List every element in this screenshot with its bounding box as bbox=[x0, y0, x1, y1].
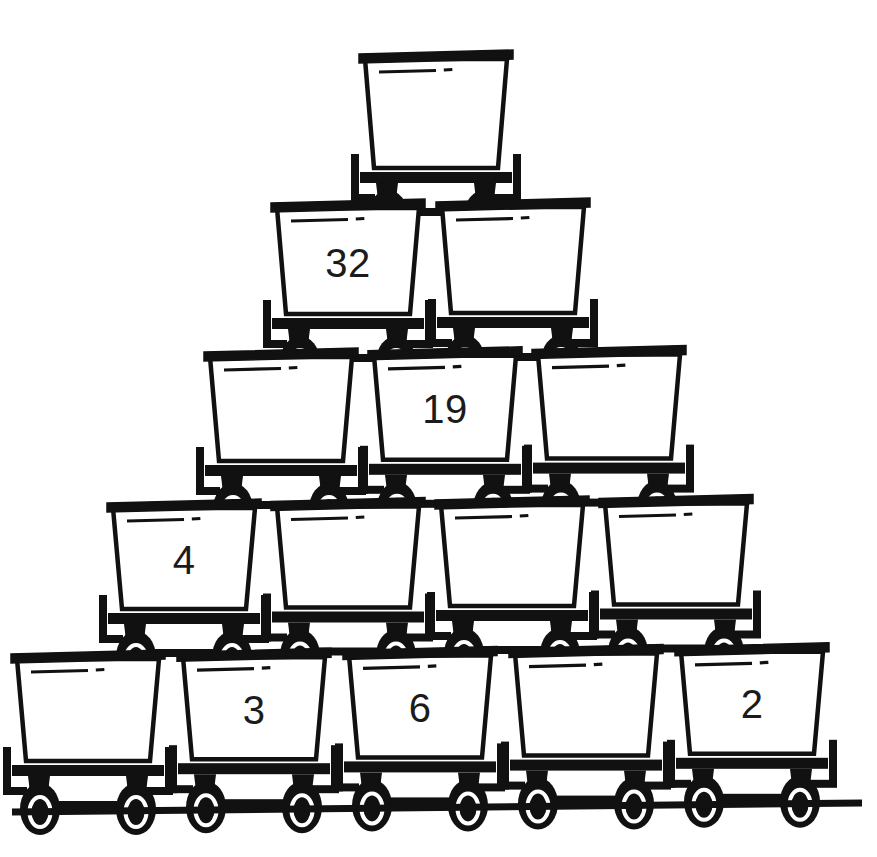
cart-highlight-dash bbox=[521, 218, 530, 219]
cart-number-label: 19 bbox=[422, 389, 468, 429]
cart-box bbox=[210, 357, 352, 461]
cart-chassis-bar bbox=[178, 763, 330, 774]
cart-highlight-dash bbox=[224, 369, 281, 371]
cart-chassis-bar bbox=[437, 317, 589, 328]
cart-buffer-arm bbox=[428, 339, 452, 347]
cart-highlight-dash bbox=[31, 671, 88, 673]
cart-highlight-dash bbox=[444, 70, 453, 71]
cart-highlight-dash bbox=[760, 662, 769, 663]
cart-number-label: 3 bbox=[243, 690, 266, 730]
cart-buffer-arm bbox=[335, 783, 359, 791]
cart-highlight-dash bbox=[356, 517, 365, 518]
cart-buffer-post bbox=[590, 299, 598, 347]
cart-highlight-dash bbox=[695, 663, 752, 665]
cart-highlight-dash bbox=[363, 667, 420, 669]
cart-buffer-post bbox=[513, 154, 521, 202]
cart-chassis-bar bbox=[676, 758, 828, 769]
cart-buffer-arm bbox=[427, 632, 451, 640]
cart-highlight-dash bbox=[262, 668, 271, 669]
cart-highlight-dash bbox=[455, 517, 512, 519]
cart-chassis-bar bbox=[12, 765, 164, 776]
cart-chassis-bar bbox=[205, 465, 357, 476]
cart-highlight-dash bbox=[456, 219, 513, 221]
cart-highlight-dash bbox=[192, 519, 201, 520]
cart-box bbox=[365, 59, 507, 168]
cart-buffer-arm bbox=[667, 780, 691, 788]
cart-buffer-post bbox=[686, 445, 694, 493]
cart-number-label: 32 bbox=[325, 243, 371, 283]
cart-chassis-bar bbox=[436, 610, 588, 621]
cart-chassis-bar bbox=[360, 172, 512, 183]
cart-buffer-arm bbox=[524, 485, 548, 493]
cart-pyramid-image: 32194362 bbox=[0, 0, 877, 857]
cart-highlight-dash bbox=[291, 220, 348, 222]
cart-highlight-dash bbox=[356, 219, 365, 220]
cart-buffer-arm bbox=[591, 631, 615, 639]
cart-highlight-dash bbox=[453, 366, 462, 367]
cart-buffer-arm bbox=[3, 787, 27, 795]
cart-chassis-bar bbox=[272, 612, 424, 623]
cart-highlight-dash bbox=[428, 666, 437, 667]
cart-chassis-bar bbox=[344, 761, 496, 772]
cart-number-label: 2 bbox=[741, 684, 764, 724]
cart-highlight-dash bbox=[520, 516, 529, 517]
cart-highlight-dash bbox=[289, 368, 298, 369]
cart-box bbox=[442, 207, 584, 313]
cart-highlight-dash bbox=[291, 518, 348, 520]
cart-highlight-dash bbox=[684, 514, 693, 515]
cart-box bbox=[441, 505, 583, 606]
cart-buffer-arm bbox=[501, 782, 525, 790]
cart-number-label: 6 bbox=[409, 688, 432, 728]
cart-box bbox=[277, 507, 419, 608]
cart-highlight-dash bbox=[594, 664, 603, 665]
cart-chassis-bar bbox=[533, 463, 685, 474]
cart-buffer-arm bbox=[99, 635, 123, 643]
cart-chassis-bar bbox=[510, 760, 662, 771]
cart-box bbox=[605, 504, 747, 605]
cart-highlight-dash bbox=[379, 71, 436, 73]
cart-highlight-dash bbox=[617, 365, 626, 366]
cart-highlight-dash bbox=[529, 665, 586, 667]
cart-buffer-post bbox=[753, 591, 761, 639]
cart-buffer-arm bbox=[169, 785, 193, 793]
cart-buffer-arm bbox=[360, 486, 384, 494]
cart-buffer-arm bbox=[263, 634, 287, 642]
cart-box bbox=[17, 659, 159, 761]
cart-buffer-post bbox=[829, 740, 837, 788]
cart-highlight-dash bbox=[388, 367, 445, 369]
cart-chassis-bar bbox=[108, 613, 260, 624]
cart-chassis-bar bbox=[369, 464, 521, 475]
cart-highlight-dash bbox=[96, 670, 105, 671]
cart-buffer-arm bbox=[263, 340, 287, 348]
cart-highlight-dash bbox=[197, 669, 254, 671]
cart-highlight-dash bbox=[619, 515, 676, 517]
cart-highlight-dash bbox=[127, 520, 184, 522]
cart-box bbox=[515, 654, 657, 756]
cart-highlight-dash bbox=[552, 366, 609, 368]
cart-chassis-bar bbox=[600, 609, 752, 620]
cart-buffer-arm bbox=[196, 487, 220, 495]
cart-number-label: 4 bbox=[173, 540, 196, 580]
cart-chassis-bar bbox=[272, 318, 424, 329]
cart-box bbox=[538, 355, 680, 459]
